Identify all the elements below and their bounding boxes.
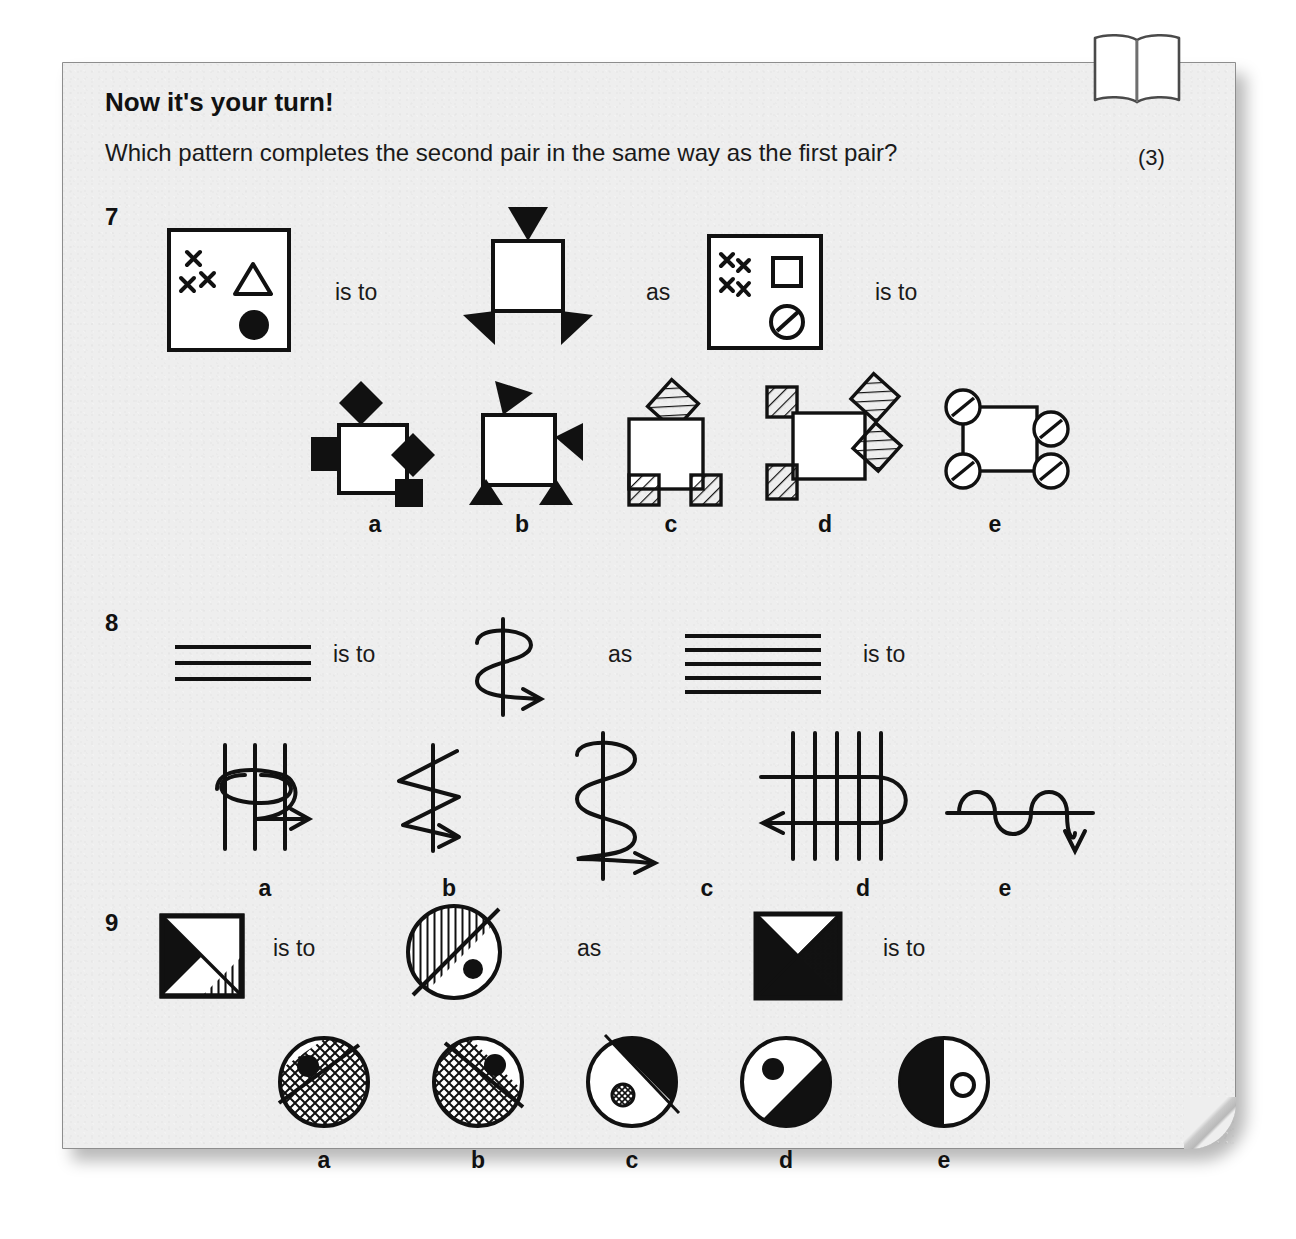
q7-stem-first-b [453, 203, 603, 349]
q8-option-b-figure [381, 741, 501, 857]
q9-connector-as: as [577, 935, 601, 962]
q8-option-a-label[interactable]: a [245, 875, 285, 902]
page-curl-corner [1184, 1097, 1236, 1149]
q7-option-e-figure [939, 379, 1067, 499]
q9-option-a-label[interactable]: a [304, 1147, 344, 1174]
q8-option-e-label[interactable]: e [985, 875, 1025, 902]
q7-option-b-figure [461, 379, 583, 507]
q8-option-b-label[interactable]: b [429, 875, 469, 902]
q7-option-d-label[interactable]: d [805, 511, 845, 538]
q8-option-c-figure [563, 729, 683, 885]
q9-option-c-figure [583, 1033, 681, 1131]
question-prompt: Which pattern completes the second pair … [105, 139, 897, 167]
q9-option-e-figure [895, 1033, 993, 1131]
q9-stem-first-a [159, 913, 245, 999]
q9-option-d-figure [737, 1033, 835, 1131]
q9-option-b-label[interactable]: b [458, 1147, 498, 1174]
page-title: Now it's your turn! [105, 87, 334, 118]
question-number-8: 8 [105, 609, 118, 637]
question-number-7: 7 [105, 203, 118, 231]
q7-connector-as: as [646, 279, 670, 306]
q9-option-d-label[interactable]: d [766, 1147, 806, 1174]
q7-connector-is-to-2: is to [875, 279, 917, 306]
worksheet-card: Now it's your turn! Which pattern comple… [62, 62, 1236, 1149]
open-book-icon [1083, 30, 1191, 106]
q8-stem-first-b [461, 615, 561, 719]
q8-connector-is-to-1: is to [333, 641, 375, 668]
q9-option-e-label[interactable]: e [924, 1147, 964, 1174]
q7-option-b-label[interactable]: b [502, 511, 542, 538]
q8-connector-is-to-2: is to [863, 641, 905, 668]
q8-connector-as: as [608, 641, 632, 668]
q9-option-c-label[interactable]: c [612, 1147, 652, 1174]
q7-stem-second-a [707, 234, 823, 350]
q7-option-c-figure [611, 379, 733, 507]
question-number-9: 9 [105, 909, 118, 937]
q7-option-c-label[interactable]: c [651, 511, 691, 538]
q7-stem-first-a [167, 228, 291, 352]
q9-stem-second-a [753, 911, 843, 1001]
q7-option-a-figure [311, 379, 437, 503]
q9-option-a-figure [275, 1033, 373, 1131]
q8-stem-first-a [173, 641, 313, 685]
q9-option-b-figure [429, 1033, 527, 1131]
q8-option-d-figure [749, 729, 929, 865]
q9-connector-is-to-2: is to [883, 935, 925, 962]
q8-option-a-figure [197, 741, 337, 857]
q8-option-d-label[interactable]: d [843, 875, 883, 902]
q8-stem-second-a [683, 631, 823, 697]
q8-option-e-figure [943, 779, 1103, 865]
q8-option-c-label[interactable]: c [687, 875, 727, 902]
q7-option-d-figure [763, 373, 903, 509]
q7-option-e-label[interactable]: e [975, 511, 1015, 538]
q9-connector-is-to-1: is to [273, 935, 315, 962]
q9-stem-first-b [403, 901, 505, 1003]
q7-connector-is-to-1: is to [335, 279, 377, 306]
marks-badge: (3) [1138, 145, 1165, 171]
q7-option-a-label[interactable]: a [355, 511, 395, 538]
